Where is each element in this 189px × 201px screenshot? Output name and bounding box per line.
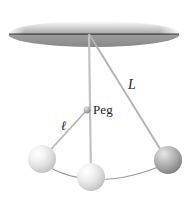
bob-left (28, 145, 56, 173)
string-long-L (89, 34, 167, 160)
peg-dot (84, 107, 91, 114)
bob-bottom (77, 163, 105, 191)
short-string-label: ℓ (61, 119, 66, 132)
ceiling-fade-mask (8, 21, 180, 35)
swing-arc-path (42, 163, 168, 180)
peg-label: Peg (93, 103, 113, 116)
pendulum-diagram-canvas (0, 0, 189, 201)
string-vertical (89, 34, 91, 177)
bob-right (154, 146, 182, 174)
long-string-label: L (128, 78, 136, 92)
pendulum-figure: Peg L ℓ (0, 0, 189, 201)
